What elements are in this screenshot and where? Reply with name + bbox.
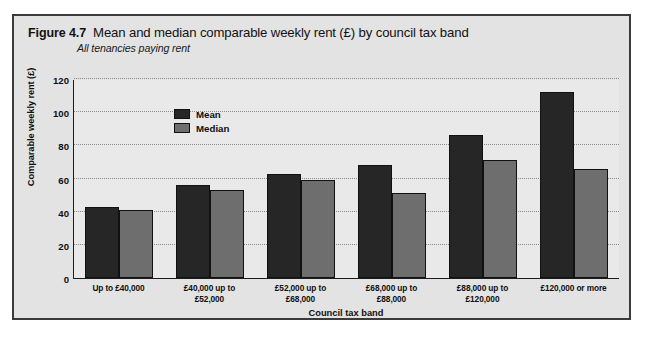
legend-swatch-median-icon	[174, 123, 190, 133]
bar-group	[74, 80, 165, 278]
gridline	[74, 78, 619, 79]
y-axis-title: Comparable weekly rent (£)	[26, 47, 36, 207]
x-axis-title: Council tax band	[73, 308, 619, 318]
y-axis-tick-label: 120	[43, 75, 69, 86]
x-axis-category-labels: Up to £40,000£40,000 up to £52,000£52,00…	[73, 283, 619, 304]
y-axis-tick-label: 60	[43, 174, 69, 185]
legend-item-median: Median	[174, 121, 229, 135]
bar-median[interactable]	[210, 190, 244, 278]
chart-plot-wrapper: Comparable weekly rent (£) 0204060801001…	[14, 16, 629, 318]
bar-mean[interactable]	[449, 135, 483, 278]
legend-label-median: Median	[196, 123, 229, 134]
x-axis-category-label: £120,000 or more	[528, 283, 619, 304]
bar-mean[interactable]	[85, 207, 119, 278]
x-axis-category-label: £40,000 up to £52,000	[164, 283, 255, 304]
bar-group	[256, 80, 347, 278]
bar-mean[interactable]	[176, 185, 210, 278]
bar-group	[346, 80, 437, 278]
bar-group	[437, 80, 528, 278]
bar-mean[interactable]	[358, 165, 392, 278]
y-axis-tick-label: 80	[43, 141, 69, 152]
y-axis-tick-label: 20	[43, 240, 69, 251]
bar-groups	[74, 80, 619, 278]
bar-median[interactable]	[392, 193, 426, 278]
x-axis-category-label: £68,000 up to £88,000	[346, 283, 437, 304]
y-axis-tick-label: 40	[43, 207, 69, 218]
x-axis-category-label: £52,000 up to £68,000	[255, 283, 346, 304]
legend-item-mean: Mean	[174, 107, 229, 121]
bar-median[interactable]	[483, 160, 517, 278]
y-axis-tick-labels: 020406080100120	[41, 80, 69, 279]
bar-median[interactable]	[301, 180, 335, 278]
bar-group	[528, 80, 619, 278]
plot-area: Mean Median	[73, 80, 619, 279]
bar-mean[interactable]	[267, 174, 301, 278]
bar-mean[interactable]	[540, 92, 574, 278]
figure-panel: Figure 4.7 Mean and median comparable we…	[12, 14, 631, 320]
y-axis-tick-label: 100	[43, 108, 69, 119]
y-axis-tick-label: 0	[43, 274, 69, 285]
legend-label-mean: Mean	[196, 109, 221, 120]
bar-median[interactable]	[119, 210, 153, 278]
x-axis-category-label: Up to £40,000	[73, 283, 164, 304]
bar-median[interactable]	[574, 169, 608, 278]
legend-swatch-mean-icon	[174, 109, 190, 119]
x-axis-category-label: £88,000 up to £120,000	[437, 283, 528, 304]
chart-legend: Mean Median	[174, 107, 229, 135]
